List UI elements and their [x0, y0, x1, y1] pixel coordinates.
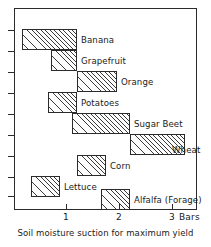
bar-sugar-beet — [72, 113, 130, 134]
bar-lettuce — [31, 176, 60, 197]
y-axis-tick — [8, 156, 14, 157]
y-axis-tick — [8, 114, 14, 115]
bar-label-grapefruit: Grapefruit — [81, 57, 126, 66]
bar-banana — [22, 29, 77, 50]
bar-label-potatoes: Potatoes — [81, 99, 119, 108]
y-axis-tick — [8, 177, 14, 178]
x-axis-tick-2 — [119, 204, 120, 210]
bar-label-orange: Orange — [121, 78, 153, 87]
bar-label-wheat: Wheat — [172, 146, 200, 155]
bar-label-banana: Banana — [81, 36, 114, 45]
x-axis-label-1: 1 — [63, 212, 69, 222]
x-axis-label-3: 3 — [169, 212, 175, 222]
y-axis-tick — [8, 51, 14, 52]
bar-label-corn: Corn — [110, 162, 131, 171]
y-axis-tick — [8, 72, 14, 73]
bar-label-sugar-beet: Sugar Beet — [134, 120, 183, 129]
x-axis-caption: Soil moisture suction for maximum yield — [0, 228, 211, 238]
chart-container: Banana Grapefruit Orange Potatoes Sugar … — [0, 0, 211, 247]
x-axis-unit-label: Bars — [179, 212, 200, 222]
bar-label-lettuce: Lettuce — [64, 183, 97, 192]
x-axis-label-2: 2 — [116, 212, 122, 222]
bar-alfalfa-forage — [101, 189, 130, 210]
x-axis-tick-1 — [66, 204, 67, 210]
y-axis-tick — [8, 135, 14, 136]
bar-label-alfalfa-forage: Alfalfa (Forage) — [134, 196, 202, 205]
bar-orange — [77, 71, 117, 92]
y-axis-tick — [8, 93, 14, 94]
y-axis-tick — [8, 196, 14, 197]
bar-potatoes — [48, 92, 77, 113]
bar-grapefruit — [51, 50, 77, 71]
x-axis-tick-3 — [172, 204, 173, 210]
y-axis-tick — [8, 30, 14, 31]
bar-corn — [77, 155, 106, 176]
